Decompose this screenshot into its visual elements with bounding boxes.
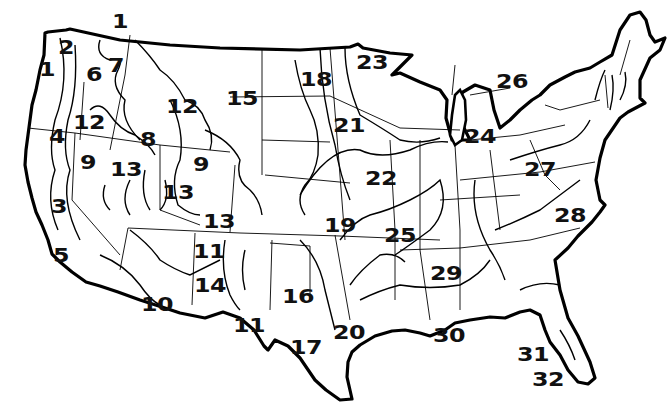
region-label: 31 xyxy=(517,345,549,364)
region-label: 23 xyxy=(356,53,388,72)
region-label: 6 xyxy=(86,65,102,84)
region-label: 18 xyxy=(300,70,332,89)
region-label: 9 xyxy=(193,155,209,174)
region-label: 13 xyxy=(162,183,194,202)
region-label: 1 xyxy=(112,12,128,31)
region-label: 19 xyxy=(324,216,356,235)
region-label: 28 xyxy=(554,206,586,225)
region-label: 4 xyxy=(49,127,65,146)
region-label: 8 xyxy=(140,130,156,149)
region-label: 22 xyxy=(365,169,397,188)
region-label: 11 xyxy=(233,316,265,335)
region-label: 32 xyxy=(532,370,564,389)
region-label: 10 xyxy=(141,295,173,314)
region-label: 7 xyxy=(108,56,124,75)
region-label: 3 xyxy=(51,197,67,216)
region-label: 29 xyxy=(430,264,462,283)
region-label: 1 xyxy=(39,60,55,79)
region-label: 24 xyxy=(464,127,496,146)
region-label: 12 xyxy=(166,97,198,116)
region-label: 17 xyxy=(290,338,322,357)
region-label: 13 xyxy=(110,160,142,179)
region-label: 20 xyxy=(333,323,365,342)
region-label: 27 xyxy=(524,160,556,179)
region-label: 11 xyxy=(193,242,225,261)
region-label: 25 xyxy=(384,226,416,245)
region-label: 16 xyxy=(282,287,314,306)
region-label: 15 xyxy=(226,89,258,108)
region-label: 9 xyxy=(80,153,96,172)
region-label: 21 xyxy=(333,116,365,135)
region-label: 14 xyxy=(194,276,226,295)
region-label: 5 xyxy=(53,246,69,265)
region-label: 2 xyxy=(58,38,74,57)
region-label: 12 xyxy=(73,113,105,132)
region-label: 26 xyxy=(496,72,528,91)
region-label: 13 xyxy=(203,212,235,231)
region-label: 30 xyxy=(433,326,465,345)
